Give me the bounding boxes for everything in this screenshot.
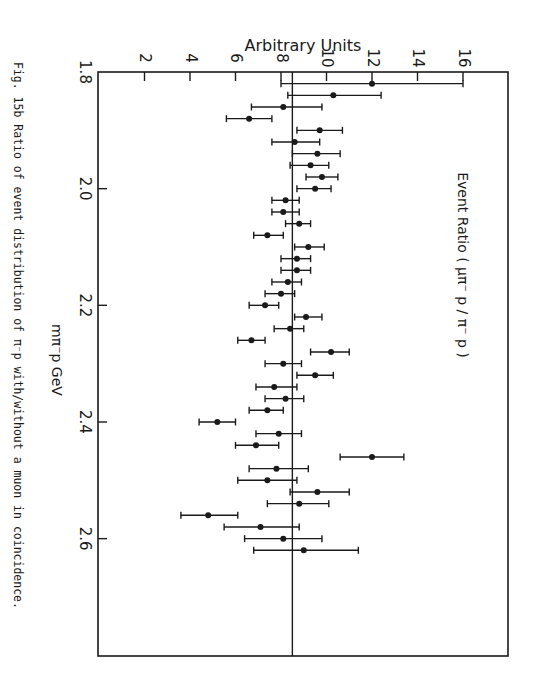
value-tick-label: 2 [136, 53, 154, 63]
point-marker [278, 291, 284, 297]
value-tick-label: 6 [227, 53, 245, 63]
point-marker [258, 524, 264, 530]
data-point [226, 115, 272, 122]
plot-border [98, 72, 508, 656]
value-tick-label: 14 [409, 48, 427, 67]
data-point [265, 395, 304, 402]
data-point [290, 488, 349, 495]
point-marker [294, 267, 300, 273]
point-marker [369, 454, 375, 460]
data-point [254, 232, 284, 239]
data-point [199, 418, 235, 425]
data-point [267, 500, 328, 507]
point-marker [280, 209, 286, 215]
data-point [281, 80, 463, 87]
data-point [256, 383, 297, 390]
point-marker [328, 349, 334, 355]
data-points [181, 80, 463, 554]
data-point [265, 360, 301, 367]
point-marker [276, 431, 282, 437]
point-marker [246, 116, 252, 122]
data-point [274, 325, 304, 332]
data-point [254, 547, 359, 554]
value-tick-label: 12 [364, 48, 382, 67]
point-marker [369, 81, 375, 87]
value-tick-label: 16 [455, 48, 473, 67]
point-marker [205, 512, 211, 518]
data-point [295, 313, 322, 320]
data-point [238, 477, 297, 484]
data-point [281, 267, 311, 274]
chart: 2468101214161.82.02.22.42.6 Arbitrary Un… [0, 0, 535, 686]
data-point [272, 208, 299, 215]
data-point [245, 535, 322, 542]
point-marker [271, 384, 277, 390]
point-marker [305, 244, 311, 250]
point-marker [273, 466, 279, 472]
point-marker [314, 489, 320, 495]
point-marker [294, 256, 300, 262]
data-point [249, 407, 283, 414]
mass-axis-label: mπ⁻p GeV [49, 324, 65, 396]
mass-tick-label: 1.8 [76, 60, 94, 84]
point-marker [283, 396, 289, 402]
data-point [281, 255, 311, 262]
data-point [249, 465, 308, 472]
data-point [236, 442, 279, 449]
data-point [292, 150, 340, 157]
axis-ticks: 2468101214161.82.02.22.42.6 [76, 48, 473, 550]
point-marker [262, 302, 268, 308]
point-marker [280, 361, 286, 367]
mass-tick-label: 2.4 [76, 410, 94, 434]
data-point [297, 185, 331, 192]
point-marker [264, 232, 270, 238]
mass-tick-label: 2.2 [76, 293, 94, 317]
mass-tick-label: 2.6 [76, 527, 94, 551]
point-marker [214, 419, 220, 425]
point-marker [308, 162, 314, 168]
data-point [297, 372, 333, 379]
mass-tick-label: 2.0 [76, 177, 94, 201]
point-marker [319, 174, 325, 180]
data-point [290, 162, 329, 169]
data-point [256, 430, 302, 437]
point-marker [312, 186, 318, 192]
data-point [340, 453, 404, 460]
point-marker [292, 139, 298, 145]
point-marker [283, 197, 289, 203]
point-marker [253, 442, 259, 448]
data-point [238, 337, 265, 344]
value-tick-label: 4 [182, 53, 200, 63]
point-marker [264, 407, 270, 413]
data-point [181, 512, 238, 519]
data-point [295, 243, 325, 250]
point-marker [280, 536, 286, 542]
data-point [272, 197, 299, 204]
data-point [272, 138, 320, 145]
point-marker [264, 477, 270, 483]
data-point [265, 290, 295, 297]
point-marker [296, 501, 302, 507]
chart-title: Event Ratio ( μπ⁻ p / π⁻ p ) [455, 172, 471, 358]
point-marker [248, 337, 254, 343]
data-point [288, 92, 381, 99]
point-marker [330, 92, 336, 98]
point-marker [285, 279, 291, 285]
point-marker [280, 104, 286, 110]
plot-frame [98, 72, 508, 656]
point-marker [312, 372, 318, 378]
data-point [297, 127, 343, 134]
data-point [272, 278, 302, 285]
point-marker [296, 221, 302, 227]
data-point [249, 302, 279, 309]
point-marker [317, 127, 323, 133]
data-point [306, 173, 338, 180]
point-marker [287, 326, 293, 332]
point-marker [314, 151, 320, 157]
data-point [286, 220, 311, 227]
data-point [251, 103, 322, 110]
point-marker [301, 547, 307, 553]
figure-caption: Fig. 15b Ratio of event distribution of … [11, 62, 25, 609]
value-axis-label: Arbitrary Units [245, 36, 362, 55]
data-point [311, 348, 350, 355]
